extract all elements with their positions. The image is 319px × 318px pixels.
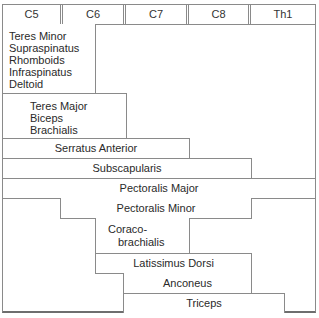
muscle-subscapularis: Subscapularis	[2, 158, 252, 179]
muscle-label: Deltoid	[9, 78, 43, 90]
muscle-label: Teres Minor	[9, 30, 66, 42]
muscle-label: Subscapularis	[92, 162, 161, 175]
muscle-pectoralis-minor: Pectoralis Minor	[60, 198, 252, 219]
header-c5-label: C5	[24, 8, 38, 20]
muscle-serratus-anterior: Serratus Anterior	[2, 138, 190, 159]
header-th1-label: Th1	[274, 8, 293, 20]
muscle-label: Latissimus Dorsi	[133, 257, 214, 270]
header-c5: C5	[2, 4, 63, 25]
header-c6-label: C6	[86, 8, 100, 20]
muscle-label: Triceps	[186, 297, 222, 310]
muscle-label: Rhomboids	[9, 54, 65, 66]
header-c8-label: C8	[211, 8, 225, 20]
muscle-label: Pectoralis Minor	[117, 202, 196, 215]
muscle-label: Brachialis	[30, 124, 78, 136]
muscle-latissimus-dorsi: Latissimus Dorsi	[95, 253, 252, 274]
muscle-label: Anconeus	[163, 277, 212, 290]
header-c7: C7	[126, 4, 189, 25]
muscle-anconeus: Anconeus	[123, 273, 252, 294]
muscle-label: Biceps	[30, 112, 63, 124]
muscle-triceps: Triceps	[123, 293, 285, 313]
muscle-group-teres-minor: Teres Minor Supraspinatus Rhomboids Infr…	[2, 24, 96, 94]
muscle-label: Pectoralis Major	[120, 182, 199, 195]
header-c6: C6	[63, 4, 126, 25]
muscle-group-teres-major: Teres Major Biceps Brachialis	[2, 93, 127, 139]
muscle-label: Infraspinatus	[9, 66, 72, 78]
header-th1: Th1	[251, 4, 316, 25]
muscle-label: brachialis	[108, 236, 164, 249]
header-c7-label: C7	[149, 8, 163, 20]
header-c8: C8	[189, 4, 251, 25]
muscle-label: Supraspinatus	[9, 42, 79, 54]
muscle-label: Coraco-	[108, 223, 147, 236]
muscle-coracobrachialis: Coraco- brachialis	[95, 218, 190, 254]
muscle-label: Serratus Anterior	[55, 142, 138, 155]
muscle-pectoralis-major: Pectoralis Major	[2, 178, 316, 199]
muscle-label: Teres Major	[30, 100, 87, 112]
